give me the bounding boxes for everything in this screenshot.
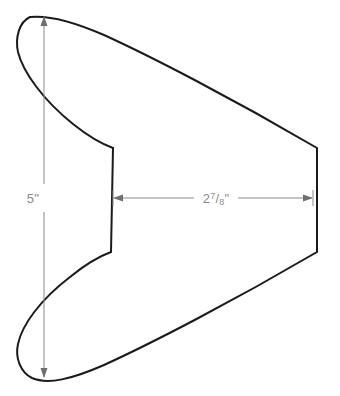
- height-dimension-label: 5": [27, 191, 39, 206]
- width-unit-mark: ": [224, 191, 229, 206]
- width-whole-number: 2: [203, 191, 210, 206]
- part-outline-shape: [17, 17, 317, 381]
- technical-drawing-canvas: 5" 27/8": [0, 0, 340, 396]
- width-dimension-label: 27/8": [203, 191, 230, 207]
